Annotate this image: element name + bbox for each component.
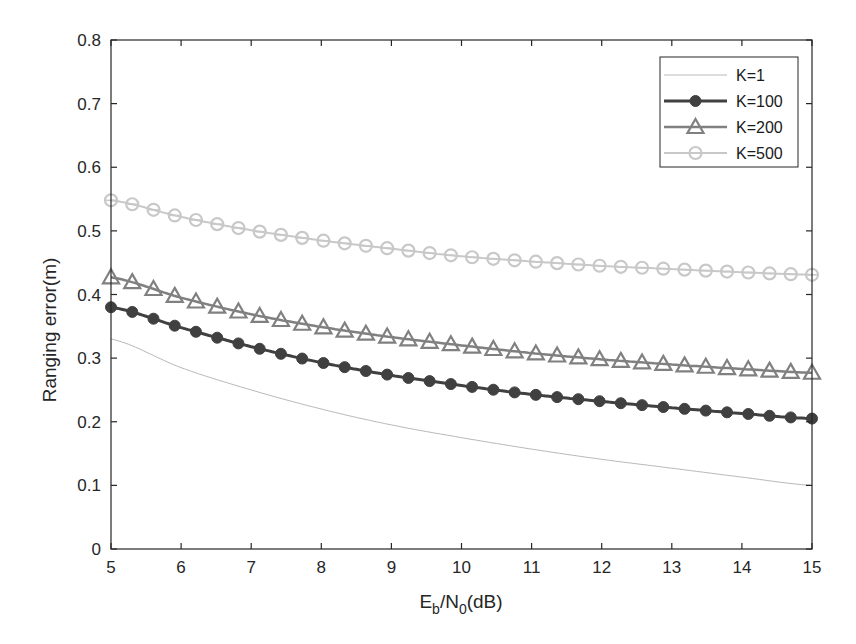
data-point-marker: [339, 362, 350, 373]
y-tick-label: 0.1: [77, 476, 101, 495]
data-point-marker: [254, 343, 265, 354]
y-tick-label: 0: [92, 540, 101, 559]
data-point-marker: [679, 403, 690, 414]
legend: K=1K=100K=200K=500: [660, 57, 798, 167]
x-label-sub2: 0: [459, 601, 467, 617]
data-point-marker: [785, 412, 796, 423]
data-point-marker: [445, 379, 456, 390]
data-point-marker: [148, 313, 159, 324]
y-axis-label: Ranging error(m): [39, 258, 60, 403]
data-point-marker: [275, 348, 286, 359]
legend-marker-icon: [690, 96, 701, 107]
x-tick-label: 12: [592, 558, 611, 577]
data-point-marker: [318, 358, 329, 369]
data-point-marker: [488, 384, 499, 395]
data-point-marker: [615, 398, 626, 409]
legend-label: K=1: [736, 67, 765, 84]
y-tick-label: 0.2: [77, 413, 101, 432]
x-tick-label: 10: [452, 558, 471, 577]
data-point-marker: [212, 332, 223, 343]
x-label-tail: (dB): [467, 591, 503, 612]
data-point-marker: [403, 372, 414, 383]
x-tick-label: 15: [803, 558, 822, 577]
x-tick-label: 14: [732, 558, 751, 577]
legend-label: K=200: [736, 119, 783, 136]
y-tick-label: 0.7: [77, 95, 101, 114]
data-point-marker: [700, 405, 711, 416]
y-tick-label: 0.8: [77, 31, 101, 50]
data-point-marker: [297, 353, 308, 364]
data-point-marker: [169, 320, 180, 331]
y-tick-label: 0.4: [77, 286, 101, 305]
data-point-marker: [637, 400, 648, 411]
x-tick-label: 8: [317, 558, 326, 577]
data-point-marker: [743, 408, 754, 419]
x-tick-label: 5: [106, 558, 115, 577]
data-point-marker: [467, 381, 478, 392]
x-tick-label: 11: [523, 558, 541, 577]
x-label-main1: E: [419, 591, 432, 612]
data-point-marker: [658, 402, 669, 413]
y-tick-label: 0.3: [77, 349, 101, 368]
x-tick-label: 13: [662, 558, 681, 577]
data-point-marker: [573, 394, 584, 405]
data-point-marker: [594, 396, 605, 407]
chart: 5678910111213141500.10.20.30.40.50.60.70…: [0, 0, 856, 644]
data-point-marker: [190, 326, 201, 337]
data-point-marker: [233, 338, 244, 349]
y-tick-label: 0.6: [77, 158, 101, 177]
legend-label: K=100: [736, 93, 783, 110]
x-label-sub1: b: [432, 601, 440, 617]
data-point-marker: [424, 376, 435, 387]
data-point-marker: [509, 387, 520, 398]
data-point-marker: [764, 410, 775, 421]
data-point-marker: [530, 389, 541, 400]
x-tick-label: 6: [176, 558, 185, 577]
data-point-marker: [552, 392, 563, 403]
data-point-marker: [722, 407, 733, 418]
data-point-marker: [360, 365, 371, 376]
legend-label: K=500: [736, 145, 783, 162]
x-tick-label: 7: [246, 558, 255, 577]
data-point-marker: [382, 369, 393, 380]
x-tick-label: 9: [387, 558, 396, 577]
x-label-main2: /N: [440, 591, 459, 612]
y-tick-label: 0.5: [77, 222, 101, 241]
data-point-marker: [127, 306, 138, 317]
